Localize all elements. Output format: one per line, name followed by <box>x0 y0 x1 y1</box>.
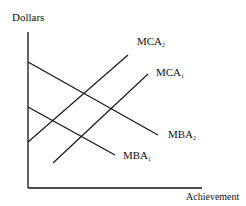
mca1-label-text: MCA <box>156 66 181 78</box>
x-axis-label: Achievement <box>186 192 239 202</box>
mca1-label-sub: 1 <box>181 73 184 79</box>
mca2-curve <box>28 55 128 142</box>
mba2-label-text: MBA <box>168 128 193 140</box>
mca2-label-text: MCA <box>137 35 162 47</box>
mca2-label: MCA2 <box>137 36 165 48</box>
diagram-canvas <box>0 0 246 206</box>
mba2-label-sub: 2 <box>193 135 196 141</box>
mba1-label-text: MBA <box>123 149 148 161</box>
mba1-label-sub: 1 <box>148 156 151 162</box>
mba2-curve <box>28 62 158 135</box>
y-axis-label: Dollars <box>12 12 44 23</box>
mba1-label: MBA1 <box>123 150 151 162</box>
mca1-label: MCA1 <box>156 67 184 79</box>
mca2-label-sub: 2 <box>162 42 165 48</box>
mba2-label: MBA2 <box>168 129 196 141</box>
